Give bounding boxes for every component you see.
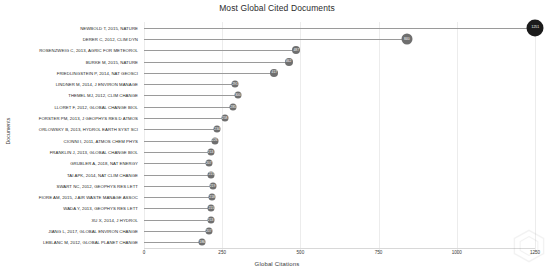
- data-point[interactable]: 840: [401, 33, 412, 44]
- data-point[interactable]: 215: [208, 205, 215, 212]
- y-tick-label: LINDNER M, 2014, J ENVIRON MANAGE: [56, 82, 138, 87]
- x-tick-label: 250: [218, 250, 226, 255]
- x-tick-label: 750: [375, 250, 383, 255]
- y-tick-label: FRIEDLINGSTEIN P, 2014, NAT GEOSCI: [57, 70, 138, 75]
- y-tick-label: ORLOWSKY B, 2013, HYDROL EARTH SYST SCI: [39, 127, 138, 132]
- lollipop-stem: [144, 197, 212, 198]
- data-point[interactable]: 291: [232, 81, 239, 88]
- lollipop-stem: [144, 186, 213, 187]
- lollipop-stem: [144, 73, 274, 74]
- chart-title: Most Global Cited Documents: [0, 3, 554, 13]
- lollipop-stem: [144, 107, 233, 108]
- data-point[interactable]: 226: [211, 137, 218, 144]
- data-point[interactable]: 213: [207, 148, 214, 155]
- lollipop-stem: [144, 50, 296, 51]
- lollipop-stem: [144, 163, 209, 164]
- lollipop-stem: [144, 231, 209, 232]
- data-point[interactable]: 487: [292, 46, 300, 54]
- data-point[interactable]: 207: [205, 228, 212, 235]
- data-point[interactable]: 1251: [527, 19, 544, 36]
- chart-container: Most Global Cited Documents Documents NE…: [0, 0, 554, 277]
- x-tick-label: 500: [297, 250, 305, 255]
- lollipop-stem: [144, 118, 225, 119]
- plot-area: 1251840487462417291300285258234226213207…: [144, 22, 535, 248]
- lollipop-stem: [144, 129, 217, 130]
- lollipop-stem: [144, 152, 211, 153]
- grid-line: [379, 22, 380, 254]
- lollipop-stem: [144, 175, 211, 176]
- y-tick-label: FORSTER PM, 2013, J GEOPHYS RES D ATMOS: [39, 116, 138, 121]
- data-point[interactable]: 207: [205, 160, 212, 167]
- data-point[interactable]: 234: [214, 126, 221, 133]
- lollipop-stem: [144, 208, 211, 209]
- data-point[interactable]: 462: [285, 58, 293, 66]
- data-point[interactable]: 219: [209, 182, 216, 189]
- data-point[interactable]: 218: [209, 194, 216, 201]
- x-tick-label: 1000: [452, 250, 462, 255]
- data-point[interactable]: 186: [199, 239, 206, 246]
- lollipop-stem: [144, 28, 535, 29]
- x-tick-label: 0: [143, 250, 146, 255]
- data-point[interactable]: 258: [221, 115, 228, 122]
- y-tick-label: ROSENZWEIG C, 2013, AGRIC FOR METEOROL: [39, 48, 138, 53]
- y-tick-label: DERER C, 2012, CLIM DYN: [83, 36, 138, 41]
- y-tick-label: GRUBLER A, 2018, NAT ENERGY: [70, 161, 138, 166]
- y-tick-label: SWART NC, 2012, GEOPHYS RES LETT: [56, 183, 138, 188]
- x-axis-label: Global Citations: [0, 261, 554, 267]
- grid-line: [457, 22, 458, 254]
- grid-line: [535, 22, 536, 254]
- y-tick-label: THEMEL MJ, 2012, CLIM CHANGE: [68, 93, 138, 98]
- lollipop-stem: [144, 62, 289, 63]
- watermark-logo: [512, 229, 546, 263]
- lollipop-stem: [144, 220, 211, 221]
- lollipop-stem: [144, 242, 202, 243]
- y-tick-label: FIORE AM, 2015, J AIR WASTE MANAGE ASSOC: [39, 195, 138, 200]
- y-tick-label: FRANKLIN J, 2013, GLOBAL CHANGE BIOL: [50, 149, 138, 154]
- data-point[interactable]: 417: [270, 69, 278, 77]
- lollipop-stem: [144, 95, 238, 96]
- grid-line: [300, 22, 301, 254]
- data-point[interactable]: 300: [234, 92, 241, 99]
- y-tick-label: CIONNI I, 2011, ATMOS CHEM PHYS: [64, 138, 138, 143]
- y-tick-label: TAI APK, 2014, NAT CLIM CHANGE: [67, 172, 138, 177]
- y-tick-label: WADA Y, 2013, GEOPHYS RES LETT: [63, 206, 138, 211]
- y-tick-label: BURKE M, 2015, NATURE: [86, 59, 138, 64]
- y-axis-tick-labels: NEWBOLD T, 2015, NATUREDERER C, 2012, CL…: [0, 22, 144, 248]
- y-tick-label: LLORET F, 2012, GLOBAL CHANGE BIOL: [54, 104, 138, 109]
- lollipop-stem: [144, 39, 407, 40]
- data-point[interactable]: 285: [230, 103, 237, 110]
- y-tick-label: XU X, 2014, J HYDROL: [91, 217, 138, 222]
- y-tick-label: LEBLANC M, 2012, GLOBAL PLANET CHANGE: [43, 240, 138, 245]
- y-tick-label: JIANG L, 2017, GLOBAL ENVIRON CHANGE: [48, 229, 138, 234]
- data-point[interactable]: 213: [207, 216, 214, 223]
- lollipop-stem: [144, 141, 215, 142]
- y-tick-label: NEWBOLD T, 2015, NATURE: [80, 25, 138, 30]
- grid-line: [222, 22, 223, 254]
- lollipop-stem: [144, 84, 235, 85]
- data-point[interactable]: 215: [208, 171, 215, 178]
- x-axis-line: [144, 248, 535, 249]
